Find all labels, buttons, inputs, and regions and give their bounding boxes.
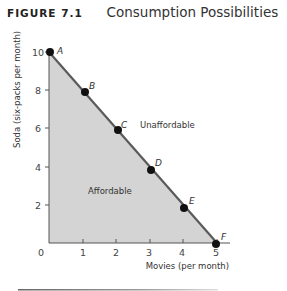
point-b bbox=[81, 88, 89, 96]
y-ticks bbox=[45, 52, 49, 205]
y-tick-label: 4 bbox=[35, 162, 41, 173]
point-e bbox=[180, 204, 188, 212]
chart: 2 4 6 8 10 0 1 2 3 4 5 A B C D E F Unaff… bbox=[0, 0, 287, 291]
point-d bbox=[147, 166, 155, 174]
x-tick-label: 1 bbox=[80, 247, 86, 258]
y-tick-label: 6 bbox=[35, 123, 41, 134]
point-label-c: C bbox=[121, 120, 128, 130]
point-label-f: F bbox=[221, 232, 227, 242]
x-tick-label: 3 bbox=[146, 247, 152, 258]
point-label-b: B bbox=[89, 81, 95, 91]
origin-label: 0 bbox=[38, 247, 44, 258]
x-tick-label: 5 bbox=[213, 247, 219, 258]
point-label-a: A bbox=[56, 46, 63, 56]
point-f bbox=[212, 240, 220, 248]
y-tick-label: 8 bbox=[35, 85, 41, 96]
y-tick-label: 2 bbox=[35, 200, 41, 211]
y-tick-label: 10 bbox=[32, 47, 44, 58]
point-a bbox=[46, 48, 54, 56]
unaffordable-label: Unaffordable bbox=[140, 120, 195, 130]
y-axis-title: Soda (six-packs per month) bbox=[12, 31, 22, 148]
x-axis-title: Movies (per month) bbox=[146, 261, 229, 271]
point-label-d: D bbox=[155, 158, 162, 168]
x-tick-label: 2 bbox=[113, 247, 119, 258]
affordable-label: Affordable bbox=[88, 186, 132, 196]
point-label-e: E bbox=[189, 196, 195, 206]
x-tick-label: 4 bbox=[179, 247, 185, 258]
bottom-rule bbox=[18, 289, 218, 291]
